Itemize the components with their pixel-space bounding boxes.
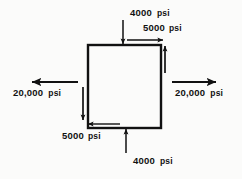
unit-normal-bottom: psi (160, 156, 173, 166)
label-shear-stress-top: 5000psi (143, 23, 182, 33)
unit-normal-top: psi (157, 8, 170, 18)
value-shear-bottom: 5000 (62, 130, 84, 141)
value-normal-top: 4000 (130, 7, 152, 18)
label-normal-stress-top: 4000psi (130, 8, 170, 18)
unit-normal-left: psi (48, 88, 61, 98)
unit-shear-top: psi (169, 23, 182, 33)
label-normal-stress-left: 20,000psi (13, 88, 61, 98)
unit-normal-right: psi (210, 88, 223, 98)
label-shear-stress-bottom: 5000psi (62, 131, 101, 141)
value-normal-right: 20,000 (175, 87, 205, 98)
value-shear-top: 5000 (143, 22, 165, 33)
value-normal-bottom: 4000 (133, 155, 155, 166)
square-element (88, 45, 161, 128)
label-normal-stress-bottom: 4000psi (133, 156, 173, 166)
label-normal-stress-right: 20,000psi (175, 88, 223, 98)
stress-element-figure: 4000psi 5000psi 20,000psi 20,000psi 5000… (0, 0, 242, 179)
value-normal-left: 20,000 (13, 87, 43, 98)
unit-shear-bottom: psi (88, 131, 101, 141)
